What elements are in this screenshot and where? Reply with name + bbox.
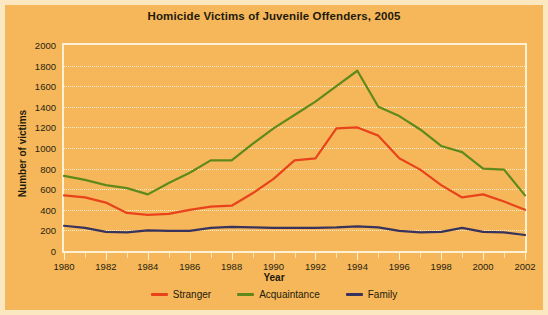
chart-legend: StrangerAcquaintanceFamily [0, 289, 548, 300]
x-axis-tick-minor [336, 253, 337, 258]
x-axis-tick-minor [85, 253, 86, 258]
x-axis-tick-label: 1994 [337, 261, 377, 272]
x-axis-tick-label: 1998 [421, 261, 461, 272]
y-axis-tick-label: 0 [16, 246, 56, 257]
legend-item-family[interactable]: Family [346, 289, 397, 300]
y-axis-tick-label: 1000 [16, 143, 56, 154]
legend-label: Stranger [173, 289, 211, 300]
x-axis-tick-label: 1990 [254, 261, 294, 272]
legend-label: Family [368, 289, 397, 300]
x-axis-tick-minor [504, 253, 505, 258]
y-axis-tick-label: 1200 [16, 122, 56, 133]
y-axis-tick-label: 1800 [16, 60, 56, 71]
x-axis-tick-minor [211, 253, 212, 258]
x-axis-tick-minor [295, 253, 296, 258]
x-axis-tick-major [106, 253, 107, 260]
x-axis-tick-major [274, 253, 275, 260]
y-axis-tick-label: 1400 [16, 101, 56, 112]
y-axis-tick-label: 400 [16, 204, 56, 215]
line-swatch-icon [237, 293, 254, 296]
x-axis-tick-major [483, 253, 484, 260]
x-axis-title: Year [0, 272, 548, 283]
x-axis-tick-major [357, 253, 358, 260]
x-axis-tick-major [525, 253, 526, 260]
x-axis-tick-label: 1988 [212, 261, 252, 272]
x-axis-tick-minor [378, 253, 379, 258]
x-axis-tick-label: 1996 [379, 261, 419, 272]
y-axis-tick-label: 600 [16, 184, 56, 195]
x-axis-tick-label: 2000 [463, 261, 503, 272]
x-axis-tick-minor [169, 253, 170, 258]
y-axis-tick-label: 2000 [16, 40, 56, 51]
y-axis-tick-label: 800 [16, 163, 56, 174]
line-swatch-icon [151, 293, 168, 296]
x-axis-tick-label: 1992 [295, 261, 335, 272]
legend-item-acquaintance[interactable]: Acquaintance [237, 289, 320, 300]
x-axis-tick-major [315, 253, 316, 260]
legend-item-stranger[interactable]: Stranger [151, 289, 211, 300]
x-axis-tick-minor [462, 253, 463, 258]
x-axis-tick-minor [127, 253, 128, 258]
line-swatch-icon [346, 293, 363, 296]
x-axis-tick-major [64, 253, 65, 260]
x-axis-tick-major [190, 253, 191, 260]
x-axis-tick-label: 1986 [170, 261, 210, 272]
x-axis-tick-label: 1980 [44, 261, 84, 272]
x-axis-tick-major [441, 253, 442, 260]
x-axis-tick-major [399, 253, 400, 260]
x-axis-tick-minor [420, 253, 421, 258]
chart-title: Homicide Victims of Juvenile Offenders, … [0, 10, 548, 22]
x-axis-tick-major [232, 253, 233, 260]
y-axis-tick-label: 200 [16, 225, 56, 236]
x-axis-tick-minor [253, 253, 254, 258]
y-axis-tick-labels: 0200400600800100012001400160018002000 [0, 43, 548, 253]
x-axis-tick-label: 1984 [128, 261, 168, 272]
x-axis-tick-label: 1982 [86, 261, 126, 272]
x-axis-tick-label: 2002 [505, 261, 545, 272]
y-axis-tick-label: 1600 [16, 81, 56, 92]
x-axis-tick-major [148, 253, 149, 260]
chart-figure: Homicide Victims of Juvenile Offenders, … [0, 0, 548, 315]
legend-label: Acquaintance [259, 289, 320, 300]
